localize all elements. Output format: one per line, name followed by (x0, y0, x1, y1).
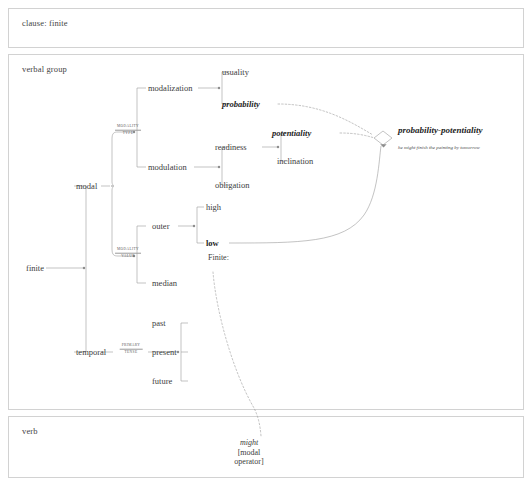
panel-clause: clause: finite (8, 8, 524, 48)
feature-probability: probability (222, 100, 260, 109)
feature-modalization: modalization (148, 84, 192, 93)
feature-past: past (152, 319, 166, 328)
feature-median: median (152, 279, 177, 288)
wording-lexical-item: might (234, 438, 263, 448)
wording-block: might [modal operator] (234, 438, 263, 467)
feature-outer: outer (152, 222, 169, 231)
feature-low: low (206, 239, 219, 248)
panel-verbal-group-label: verbal group (22, 64, 67, 74)
gate-output-gloss: he might finish the painting by tomorrow (398, 145, 480, 150)
feature-high: high (206, 203, 221, 212)
wording-class-line1: [modal (234, 448, 263, 458)
system-name-modality-type-line1: MODALITY (115, 124, 141, 131)
feature-inclination: inclination (277, 157, 313, 166)
feature-present: present (152, 348, 177, 357)
panel-verb-label: verb (22, 426, 38, 436)
system-name-primary-tense: PRIMARY TENSE (120, 343, 143, 356)
system-network-diagram: clause: finite verbal group verb node po… (0, 0, 532, 492)
feature-potentiality: potentiality (272, 129, 311, 138)
wording-class-line2: operator] (234, 457, 263, 467)
panel-clause-label: clause: finite (22, 18, 68, 28)
system-name-modality-value-line1: MODALITY (115, 247, 141, 254)
feature-modulation: modulation (148, 163, 187, 172)
feature-modal: modal (76, 182, 97, 191)
system-name-modality-value-line2: VALUE (115, 254, 141, 260)
system-name-modality-value: MODALITY VALUE (115, 247, 141, 260)
system-name-primary-tense-line1: PRIMARY (120, 343, 143, 350)
feature-future: future (152, 377, 172, 386)
feature-usuality: usuality (222, 68, 249, 77)
system-name-primary-tense-line2: TENSE (120, 350, 143, 356)
panel-verbal-group: verbal group (8, 54, 524, 410)
feature-obligation: obligation (215, 181, 249, 190)
realization-statement: Finite: (208, 253, 229, 262)
system-name-modality-type: MODALITY TYPE (115, 124, 141, 137)
panel-verb: verb (8, 416, 524, 478)
feature-finite: finite (26, 264, 44, 273)
system-name-modality-type-line2: TYPE (115, 131, 141, 137)
feature-readiness: readiness (215, 143, 247, 152)
gate-output-label: probability-potentiality (398, 126, 483, 135)
feature-temporal: temporal (76, 348, 106, 357)
